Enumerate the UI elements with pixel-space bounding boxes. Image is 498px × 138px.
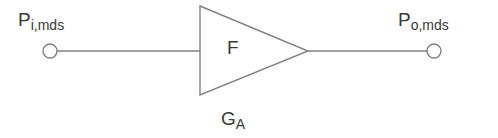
diagram-canvas: Pi,mds Po,mds F GA [0, 0, 498, 138]
output-terminal-node [427, 44, 441, 58]
input-power-label: Pi,mds [18, 10, 64, 29]
amplifier-gain-label: GA [221, 109, 245, 128]
input-terminal-node [43, 44, 57, 58]
noise-figure-label: F [227, 38, 239, 57]
input-power-symbol: P [18, 9, 31, 30]
gain-symbol: G [221, 108, 236, 129]
gain-subscript: A [236, 116, 245, 132]
output-power-symbol: P [398, 9, 411, 30]
output-power-subscript: o,mds [411, 17, 449, 33]
amplifier-triangle [200, 6, 308, 95]
output-power-label: Po,mds [398, 10, 449, 29]
input-power-subscript: i,mds [31, 17, 64, 33]
